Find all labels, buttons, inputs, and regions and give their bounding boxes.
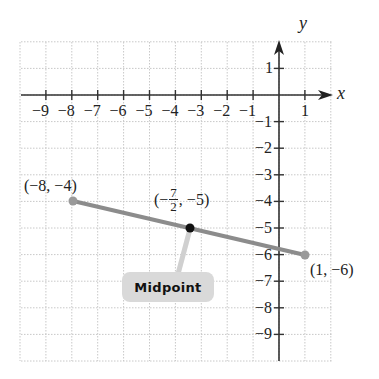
endpoint-a-label: (−8, −4) [24,178,77,194]
x-tick-label: −5 [136,103,153,119]
x-axis-label: x [337,84,345,102]
midpoint-label: (− 7 2 , −5) [154,186,209,213]
fraction-denominator: 2 [170,200,177,213]
midpoint-dot [186,224,195,233]
y-tick-label: −4 [255,193,272,209]
y-tick-label: −7 [255,273,272,289]
midpoint-label-open: (− [154,192,168,208]
x-tick-label: −4 [161,103,178,119]
endpoint-b-label: (1, −6) [310,262,354,278]
y-tick-label: −6 [255,247,272,263]
y-tick-label: −2 [255,140,272,156]
x-tick-label: 1 [301,103,309,119]
x-tick-label: −9 [32,103,49,119]
midpoint-callout: Midpoint [122,272,214,302]
y-tick-label: −3 [255,167,272,183]
endpoint-b [301,251,310,260]
x-tick-label: −7 [84,103,101,119]
x-tick-label: −1 [239,103,256,119]
midpoint-label-close: , −5) [179,192,209,208]
y-tick-label: −1 [255,114,272,130]
callout-pointer [178,229,190,274]
y-tick-label: −8 [255,300,272,316]
fraction: 7 2 [169,186,178,213]
y-tick-label: −5 [255,220,272,236]
y-axis [274,40,284,361]
fraction-numerator: 7 [169,186,178,200]
endpoint-a [69,197,78,206]
x-tick-label: −6 [110,103,127,119]
y-tick-label: 1 [265,60,273,76]
x-tick-label: −8 [58,103,75,119]
y-tick-label: −9 [255,326,272,342]
x-tick-label: −3 [187,103,204,119]
y-axis-label: y [299,14,307,32]
x-axis [21,90,333,100]
x-tick-label: −2 [213,103,230,119]
